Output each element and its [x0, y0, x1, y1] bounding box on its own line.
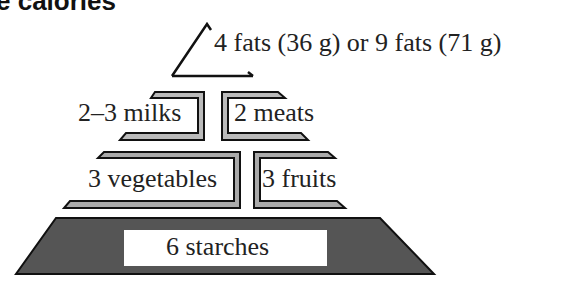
milks-label: 2–3 milks — [78, 98, 181, 128]
fruits-label: 3 fruits — [262, 164, 336, 194]
apex-label: 4 fats (36 g) or 9 fats (71 g) — [214, 28, 501, 58]
vegetables-label: 3 vegetables — [88, 164, 217, 194]
starches-label: 6 starches — [166, 232, 269, 262]
meats-label: 2 meats — [234, 98, 314, 128]
apex-outline — [172, 24, 211, 76]
